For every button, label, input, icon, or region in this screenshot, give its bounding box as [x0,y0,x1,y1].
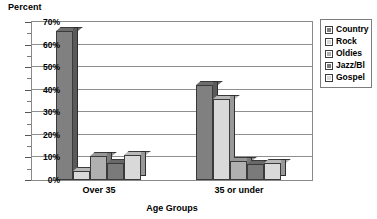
legend-item: Oldies [325,48,368,59]
y-tick-mark [25,22,31,23]
bar [213,95,230,180]
bar-face [196,85,213,180]
x-tick-label: Over 35 [82,185,115,195]
bar-chart: Percent 0%10%20%30%40%50%60%70% Over 353… [0,0,377,219]
gridline [32,21,312,22]
y-tick-mark [25,180,31,181]
bar-side [73,27,78,176]
legend-swatch-icon [325,26,333,34]
bar-face [73,171,90,180]
y-tick-minor-mark [27,56,31,57]
legend-swatch-icon [325,38,333,46]
chart-legend: CountryRockOldiesJazz/BlGospel [320,19,372,88]
legend-label: Oldies [336,49,362,58]
y-tick-minor-mark [27,124,31,125]
bar-face [124,155,141,180]
bar [196,81,213,180]
legend-label: Jazz/Bl [336,61,365,70]
bar [247,160,264,180]
legend-item: Jazz/Bl [325,60,368,71]
legend-label: Rock [336,37,357,46]
bar-face [230,161,247,180]
bar [124,151,141,180]
y-tick-mark [25,67,31,68]
y-tick-minor-mark [27,78,31,79]
y-tick-mark [25,90,31,91]
legend-item: Country [325,24,368,35]
bar [73,167,90,180]
legend-swatch-icon [325,62,333,70]
x-tick-label: 35 or under [214,185,263,195]
y-tick-minor-mark [27,101,31,102]
y-tick-mark [25,45,31,46]
bar-face [90,156,107,180]
y-tick-mark [25,112,31,113]
legend-item: Rock [325,36,368,47]
bar [230,157,247,180]
legend-label: Country [336,25,369,34]
legend-swatch-icon [325,50,333,58]
bar-face [247,164,264,180]
bar [264,159,281,180]
plot-area [31,21,313,181]
legend-item: Gospel [325,72,368,83]
bar-face [107,163,124,180]
bar [90,152,107,180]
y-axis-title: Percent [8,2,42,12]
bar-face [213,99,230,180]
legend-label: Gospel [336,73,365,82]
y-tick-mark [25,157,31,158]
y-tick-mark [25,135,31,136]
y-tick-minor-mark [27,146,31,147]
bar [107,159,124,180]
y-tick-minor-mark [27,33,31,34]
bar-side [281,159,286,176]
y-tick-minor-mark [27,169,31,170]
bar-face [264,163,281,180]
legend-swatch-icon [325,74,333,82]
x-axis-title: Age Groups [146,203,198,213]
bar-side [141,151,146,176]
